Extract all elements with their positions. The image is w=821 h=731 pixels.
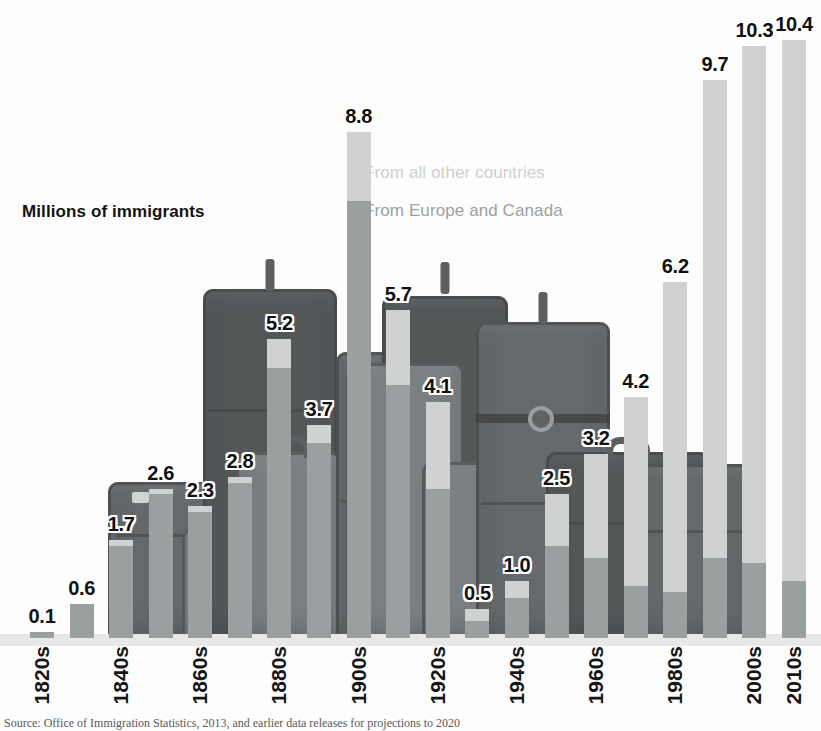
bar-segment-europe-canada [70,604,94,639]
bar-segment-europe-canada [465,621,489,638]
bar-plot-area: 0.10.61.72.62.32.85.23.78.85.74.10.51.02… [0,0,821,646]
bar-segment-europe-canada [188,512,212,639]
bar-segment-other-countries [782,40,806,581]
bar-1930s[interactable]: 0.5 [465,0,489,646]
bar-value-label: 0.6 [68,578,95,598]
bar-stack [584,454,608,638]
bar-segment-europe-canada [267,368,291,638]
bar-value-label: 1.7 [108,514,135,534]
bar-stack [70,604,94,639]
chart-figure: 0.10.61.72.62.32.85.23.78.85.74.10.51.02… [0,0,821,731]
x-tick-1940s: 1940s [506,646,527,704]
bar-value-label: 2.8 [226,451,253,471]
bar-value-label: 0.5 [464,583,491,603]
bar-stack [465,609,489,638]
bar-value-label: 2.6 [147,463,174,483]
bar-segment-europe-canada [663,592,687,638]
bar-value-label: 1.0 [503,555,530,575]
bar-stack [228,477,252,638]
bar-1980s[interactable]: 6.2 [663,0,687,646]
bar-stack [545,494,569,638]
bar-stack [188,506,212,638]
bar-segment-europe-canada [545,546,569,638]
bar-value-label: 4.1 [424,376,451,396]
bar-value-label: 9.7 [701,54,728,74]
bar-segment-europe-canada [584,558,608,639]
bar-1950s[interactable]: 2.5 [545,0,569,646]
bar-segment-other-countries [386,310,410,385]
bar-segment-other-countries [584,454,608,558]
bar-value-label: 5.2 [266,313,293,333]
bar-stack [109,540,133,638]
bar-value-label: 8.8 [345,106,372,126]
x-tick-1980s: 1980s [664,646,685,704]
bar-segment-europe-canada [228,483,252,638]
legend-item-europe-canada: From Europe and Canada [364,201,563,221]
bar-segment-europe-canada [109,546,133,638]
x-axis: 1820s1840s1860s1880s1900s1920s1940s1960s… [0,646,821,716]
bar-segment-europe-canada [624,586,648,638]
bar-1890s[interactable]: 3.7 [307,0,331,646]
x-tick-1960s: 1960s [585,646,606,704]
bar-stack [30,632,54,638]
bar-2000s[interactable]: 10.3 [742,0,766,646]
bar-1970s[interactable]: 4.2 [624,0,648,646]
bar-segment-europe-canada [703,558,727,639]
bar-segment-other-countries [307,425,331,442]
bar-value-label: 3.2 [583,428,610,448]
bar-1820s[interactable]: 0.1 [30,0,54,646]
bar-value-label: 5.7 [385,284,412,304]
bar-1850s[interactable]: 2.6 [149,0,173,646]
bar-value-label: 3.7 [306,399,333,419]
bar-segment-other-countries [624,397,648,587]
bar-segment-other-countries [663,282,687,593]
bar-1840s[interactable]: 1.7 [109,0,133,646]
bar-segment-europe-canada [505,598,529,638]
bar-1830s[interactable]: 0.6 [70,0,94,646]
bar-value-label: 4.2 [622,371,649,391]
bar-segment-europe-canada [347,201,371,638]
x-tick-2010s: 2010s [783,646,804,704]
bar-stack [782,40,806,638]
bar-1900s[interactable]: 8.8 [347,0,371,646]
bar-segment-other-countries [545,494,569,546]
bar-segment-other-countries [426,402,450,488]
bar-value-label: 2.3 [187,480,214,500]
bar-value-label: 10.3 [736,20,774,40]
bar-1920s[interactable]: 4.1 [426,0,450,646]
bar-segment-other-countries [267,339,291,368]
bar-stack [307,425,331,638]
bar-1910s[interactable]: 5.7 [386,0,410,646]
bar-segment-europe-canada [149,494,173,638]
x-tick-1880s: 1880s [268,646,289,704]
bar-segment-europe-canada [307,443,331,639]
bar-stack [426,402,450,638]
bar-segment-europe-canada [30,632,54,638]
bar-1860s[interactable]: 2.3 [188,0,212,646]
bar-1990s[interactable]: 9.7 [703,0,727,646]
x-tick-1860s: 1860s [189,646,210,704]
bar-segment-other-countries [505,581,529,598]
legend-item-other-countries: From all other countries [364,163,545,183]
bar-segment-other-countries [703,80,727,557]
bar-value-label: 6.2 [662,256,689,276]
bar-segment-europe-canada [426,489,450,639]
bar-value-label: 2.5 [543,468,570,488]
bar-stack [742,46,766,638]
x-tick-1840s: 1840s [110,646,131,704]
bar-stack [149,489,173,639]
bar-segment-europe-canada [782,581,806,639]
bar-value-label: 10.4 [775,14,813,34]
chart-title: Millions of immigrants [22,202,205,222]
bar-stack [505,581,529,639]
bar-segment-other-countries [465,609,489,621]
x-tick-1920s: 1920s [427,646,448,704]
bar-stack [386,310,410,638]
bar-1960s[interactable]: 3.2 [584,0,608,646]
bar-1880s[interactable]: 5.2 [267,0,291,646]
bar-1940s[interactable]: 1.0 [505,0,529,646]
bar-segment-europe-canada [386,385,410,638]
bar-2010s[interactable]: 10.4 [782,0,806,646]
bar-segment-europe-canada [742,563,766,638]
bar-1870s[interactable]: 2.8 [228,0,252,646]
